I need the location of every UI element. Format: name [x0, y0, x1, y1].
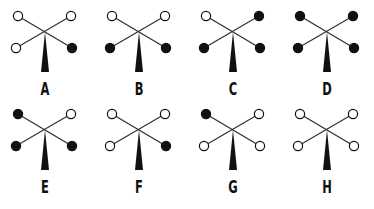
open-dot-icon-top-left [201, 11, 210, 20]
open-dot-icon-top-right [254, 109, 263, 118]
filled-dot-icon-top-left [13, 109, 22, 118]
open-dot-icon-top-right [160, 11, 169, 20]
spike-icon [229, 32, 237, 72]
x-dot-diagram [188, 98, 278, 178]
x-dot-diagram [282, 98, 372, 178]
figure-label: C [199, 79, 267, 99]
figure-f: F [94, 98, 184, 202]
figure-b: B [94, 0, 184, 104]
open-dot-icon-top-right [66, 11, 75, 20]
open-dot-icon-bottom-left [11, 43, 20, 52]
filled-dot-icon-bottom-right [161, 141, 170, 150]
open-dot-icon-bottom-right [255, 141, 264, 150]
figure-c: C [188, 0, 278, 104]
spike-icon [135, 130, 143, 170]
spike-icon [41, 32, 49, 72]
x-dot-diagram [94, 0, 184, 80]
figure-a: A [0, 0, 90, 104]
open-dot-icon-bottom-right [349, 141, 358, 150]
open-dot-icon-top-right [348, 109, 357, 118]
figure-label: B [105, 79, 173, 99]
open-dot-icon-top-left [13, 11, 22, 20]
spike-icon [41, 130, 49, 170]
filled-dot-icon-top-left [295, 11, 304, 20]
filled-dot-icon-bottom-left [199, 43, 208, 52]
spike-icon [323, 32, 331, 72]
figure-label: A [11, 79, 79, 99]
figure-label: G [199, 177, 267, 197]
filled-dot-icon-bottom-right [349, 43, 358, 52]
filled-dot-icon-top-left [201, 109, 210, 118]
open-dot-icon-top-right [160, 109, 169, 118]
open-dot-icon-bottom-left [105, 141, 114, 150]
figure-label: E [11, 177, 79, 197]
figure-label: D [293, 79, 361, 99]
figure-e: E [0, 98, 90, 202]
open-dot-icon-top-left [295, 109, 304, 118]
filled-dot-icon-bottom-right [255, 43, 264, 52]
filled-dot-icon-bottom-right [67, 141, 76, 150]
filled-dot-icon-bottom-right [161, 43, 170, 52]
figure-label: H [293, 177, 361, 197]
open-dot-icon-top-right [66, 109, 75, 118]
open-dot-icon-top-left [107, 109, 116, 118]
open-dot-icon-bottom-left [199, 141, 208, 150]
x-dot-diagram [0, 98, 90, 178]
filled-dot-icon-bottom-right [67, 43, 76, 52]
x-dot-diagram [0, 0, 90, 80]
x-dot-diagram [94, 98, 184, 178]
open-dot-icon-top-left [107, 11, 116, 20]
x-dot-diagram [188, 0, 278, 80]
spike-icon [135, 32, 143, 72]
x-dot-diagram [282, 0, 372, 80]
figure-d: D [282, 0, 372, 104]
filled-dot-icon-bottom-left [105, 43, 114, 52]
open-dot-icon-bottom-left [293, 141, 302, 150]
spike-icon [323, 130, 331, 170]
filled-dot-icon-bottom-left [11, 141, 20, 150]
filled-dot-icon-top-right [348, 11, 357, 20]
filled-dot-icon-bottom-left [293, 43, 302, 52]
figure-g: G [188, 98, 278, 202]
filled-dot-icon-top-right [254, 11, 263, 20]
figure-h: H [282, 98, 372, 202]
spike-icon [229, 130, 237, 170]
figure-label: F [105, 177, 173, 197]
